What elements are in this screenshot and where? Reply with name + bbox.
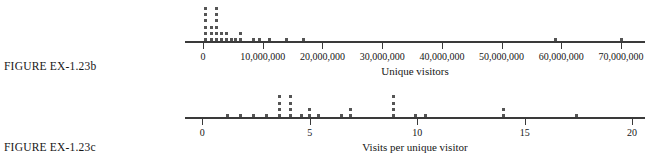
dotplot-unique-visitors: 010,000,00020,000,00030,000,00040,000,00… <box>185 0 645 78</box>
x-axis-tick-label: 10 <box>412 127 422 138</box>
x-axis-tick <box>202 119 203 125</box>
x-axis-tick <box>322 43 323 49</box>
data-point <box>204 7 207 10</box>
data-point <box>414 114 417 117</box>
data-point <box>308 114 311 117</box>
x-axis-tick <box>561 43 562 49</box>
x-axis-tick-label: 70,000,000 <box>599 51 644 62</box>
data-point <box>502 108 505 111</box>
data-point <box>392 102 395 105</box>
data-point <box>278 108 281 111</box>
data-point <box>210 38 213 41</box>
data-point <box>204 13 207 16</box>
data-point <box>239 32 242 35</box>
x-axis-tick-label: 20,000,000 <box>300 51 345 62</box>
data-point <box>302 38 305 41</box>
data-point <box>204 32 207 35</box>
x-axis-tick-label: 20 <box>627 127 637 138</box>
data-point <box>215 38 218 41</box>
x-axis-tick <box>442 43 443 49</box>
x-axis-tick <box>502 43 503 49</box>
data-point <box>239 114 242 117</box>
data-point <box>317 114 320 117</box>
data-point <box>230 38 233 41</box>
x-axis-tick <box>632 119 633 125</box>
data-point <box>215 26 218 29</box>
data-point <box>575 114 578 117</box>
figure-ex-1-23c: FIGURE EX-1.23c 05101520 Visits per uniq… <box>0 79 653 157</box>
dotplot-visits-per-unique-visitor: 05101520 Visits per unique visitor <box>185 79 645 157</box>
data-point <box>225 38 228 41</box>
data-point <box>258 38 261 41</box>
x-axis-tick-label: 5 <box>307 127 312 138</box>
data-point <box>349 108 352 111</box>
x-axis-tick <box>310 119 311 125</box>
data-point <box>349 114 352 117</box>
data-point <box>289 114 292 117</box>
data-point <box>308 108 311 111</box>
data-point <box>392 95 395 98</box>
x-axis-title: Unique visitors <box>185 65 645 77</box>
data-point <box>268 38 271 41</box>
data-point <box>204 26 207 29</box>
x-axis-tick-label: 50,000,000 <box>479 51 524 62</box>
data-point <box>204 38 207 41</box>
data-point <box>502 114 505 117</box>
x-axis-tick-label: 15 <box>520 127 530 138</box>
data-point <box>215 32 218 35</box>
data-point <box>252 114 255 117</box>
data-point <box>225 32 228 35</box>
data-point <box>204 19 207 22</box>
x-axis-line <box>185 41 645 43</box>
data-point <box>289 108 292 111</box>
data-point <box>289 102 292 105</box>
data-point <box>210 26 213 29</box>
data-point <box>289 95 292 98</box>
data-point <box>239 38 242 41</box>
x-axis-tick-label: 10,000,000 <box>240 51 285 62</box>
data-point <box>424 114 427 117</box>
x-axis-tick <box>621 43 622 49</box>
data-point <box>220 32 223 35</box>
x-axis-tick-label: 60,000,000 <box>539 51 584 62</box>
data-point <box>215 19 218 22</box>
x-axis-tick <box>203 43 204 49</box>
x-axis-tick-label: 0 <box>200 51 205 62</box>
data-point <box>340 114 343 117</box>
data-point <box>226 114 229 117</box>
data-point <box>210 32 213 35</box>
data-point <box>252 38 255 41</box>
data-point <box>215 7 218 10</box>
data-point <box>285 38 288 41</box>
data-point <box>215 13 218 16</box>
data-point <box>620 38 623 41</box>
x-axis-tick <box>382 43 383 49</box>
x-axis-title: Visits per unique visitor <box>185 141 645 153</box>
data-point <box>234 38 237 41</box>
data-point <box>278 95 281 98</box>
figure-caption-c: FIGURE EX-1.23c <box>4 141 96 153</box>
x-axis-tick <box>525 119 526 125</box>
data-point <box>278 102 281 105</box>
data-point <box>554 38 557 41</box>
data-point <box>265 114 268 117</box>
data-point <box>220 38 223 41</box>
figure-ex-1-23b: FIGURE EX-1.23b 010,000,00020,000,00030,… <box>0 0 653 78</box>
data-point <box>278 114 281 117</box>
x-axis-tick-label: 30,000,000 <box>360 51 405 62</box>
data-point <box>392 108 395 111</box>
x-axis-line <box>185 117 645 119</box>
x-axis-tick <box>417 119 418 125</box>
data-point <box>300 114 303 117</box>
x-axis-tick <box>263 43 264 49</box>
data-point <box>392 114 395 117</box>
figure-caption-b: FIGURE EX-1.23b <box>4 60 96 72</box>
x-axis-tick-label: 0 <box>200 127 205 138</box>
x-axis-tick-label: 40,000,000 <box>419 51 464 62</box>
